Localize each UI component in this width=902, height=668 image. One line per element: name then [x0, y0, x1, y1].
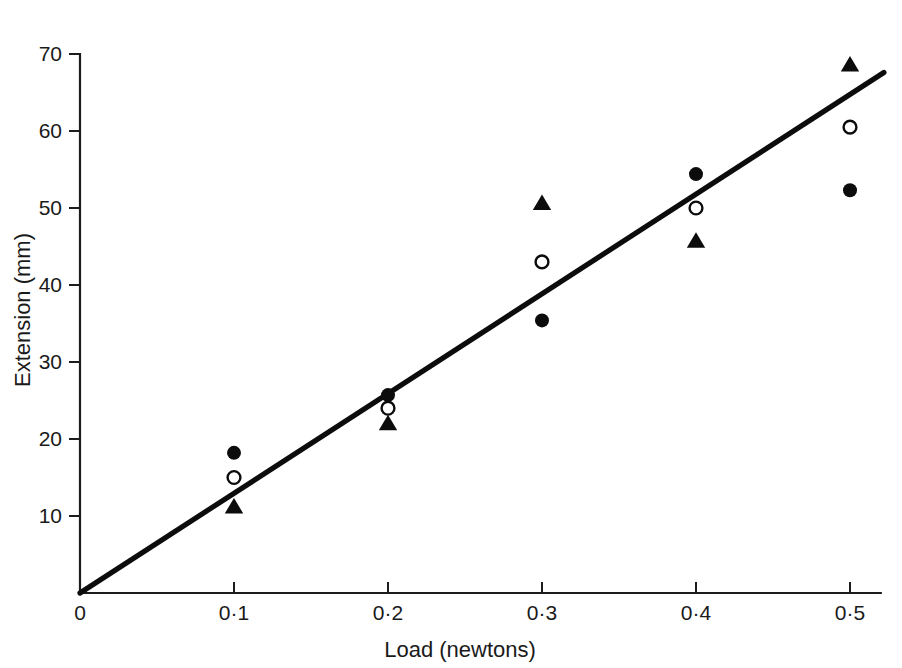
- marker-filled-triangle: [533, 195, 551, 211]
- chart-figure: 10203040506070 00·10·20·30·40·5 Extensio…: [0, 0, 902, 668]
- ticks-group: [69, 54, 850, 593]
- y-tick-label: 20: [39, 427, 62, 450]
- x-tick-label: 0·1: [219, 601, 249, 624]
- x-tick-label: 0: [74, 601, 86, 624]
- best-fit-line-path: [80, 72, 884, 593]
- y-tick-label: 10: [39, 504, 62, 527]
- x-tick-labels: 00·10·20·30·40·5: [74, 601, 865, 624]
- marker-filled-triangle: [379, 415, 397, 431]
- marker-open-circle: [228, 471, 241, 484]
- y-tick-label: 70: [39, 42, 62, 65]
- marker-filled-triangle: [841, 56, 859, 72]
- marker-open-circle: [536, 256, 549, 269]
- y-axis-title: Extension (mm): [10, 233, 35, 387]
- x-axis-title: Load (newtons): [384, 637, 536, 662]
- marker-open-circle: [382, 402, 395, 415]
- y-tick-label: 30: [39, 350, 62, 373]
- marker-filled-circle: [689, 167, 703, 181]
- scatter-plot: 10203040506070 00·10·20·30·40·5 Extensio…: [0, 0, 902, 668]
- y-tick-label: 40: [39, 273, 62, 296]
- y-tick-labels: 10203040506070: [39, 42, 62, 527]
- y-tick-label: 60: [39, 119, 62, 142]
- marker-filled-circle: [381, 388, 395, 402]
- marker-filled-circle: [843, 183, 857, 197]
- x-tick-label: 0·4: [681, 601, 712, 624]
- marker-filled-circle: [227, 446, 241, 460]
- x-tick-label: 0·5: [835, 601, 865, 624]
- y-tick-label: 50: [39, 196, 62, 219]
- marker-filled-triangle: [687, 232, 705, 248]
- best-fit-line: [80, 72, 884, 593]
- x-tick-label: 0·2: [373, 601, 403, 624]
- x-tick-label: 0·3: [527, 601, 557, 624]
- marker-open-circle: [844, 121, 857, 134]
- data-markers: [225, 56, 859, 513]
- marker-filled-circle: [535, 313, 549, 327]
- marker-open-circle: [690, 202, 703, 215]
